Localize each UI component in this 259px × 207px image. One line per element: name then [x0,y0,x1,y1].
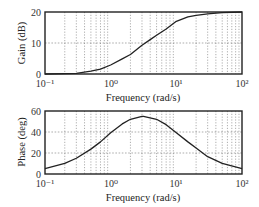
gain-xtick-100: 10² [236,78,249,89]
gain-xtick-1: 10⁰ [104,78,118,89]
phase-ytick-20: 20 [31,148,41,159]
phase-xtick-10: 10¹ [170,178,183,189]
gain-xtick-0.1: 10⁻¹ [36,78,54,89]
phase-xtick-100: 10² [236,178,249,189]
phase-ytick-60: 60 [31,106,41,117]
gain-xlabel: Frequency (rad/s) [106,92,181,104]
gain-ytick-10: 10 [31,38,41,49]
phase-xlabel: Frequency (rad/s) [106,192,181,204]
phase-ytick-40: 40 [31,127,41,138]
bode-plot: 20 10 0 10⁻¹ 10⁰ 10¹ 10² Frequency (rad/… [0,0,259,207]
gain-xtick-10: 10¹ [170,78,183,89]
gain-ytick-20: 20 [31,7,41,18]
gain-ylabel: Gain (dB) [16,21,28,64]
plot-frame [45,111,242,174]
gain-plot [45,12,242,74]
phase-ylabel: Phase (deg) [16,117,28,167]
phase-plot [45,111,242,174]
phase-xtick-1: 10⁰ [104,178,118,189]
phase-xtick-0.1: 10⁻¹ [36,178,54,189]
data-curve [45,116,242,168]
